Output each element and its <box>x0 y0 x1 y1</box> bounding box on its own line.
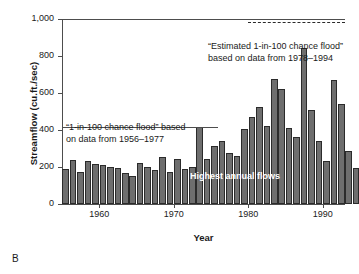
x-tick-label: 1980 <box>238 209 258 219</box>
x-tick-label: 1970 <box>164 209 184 219</box>
bar <box>286 128 293 204</box>
bar <box>278 89 285 204</box>
y-tick: 600 <box>58 93 63 94</box>
x-tick-label: 1960 <box>89 209 109 219</box>
reference-line-1978-1994 <box>248 22 345 23</box>
annotation-estimated-flood: “Estimated 1-in-100 chance flood” based … <box>208 41 343 64</box>
bar <box>137 163 144 204</box>
y-tick-label: 0 <box>20 198 54 208</box>
bar <box>204 159 211 204</box>
bar <box>338 104 345 204</box>
x-tick-label: 1990 <box>313 209 333 219</box>
bar <box>144 167 151 204</box>
x-tick <box>99 204 100 208</box>
bar <box>70 160 77 204</box>
plot-area: 02004006008001,000 1960197019801990 “Est… <box>62 19 345 204</box>
bar <box>345 151 352 204</box>
bar <box>182 169 189 204</box>
bar <box>77 172 84 204</box>
bar <box>107 167 114 204</box>
annotation-highest-annual-flows: Highest annual flows <box>190 171 280 181</box>
bar <box>129 176 136 204</box>
bar <box>249 117 256 204</box>
y-axis-title: Streamflow (cu.ft./sec) <box>28 19 39 209</box>
bar <box>152 170 159 204</box>
x-tick <box>323 204 324 208</box>
annotation-chance-flood-line1: “1-in-100 chance flood” based <box>66 122 186 134</box>
bar <box>331 80 338 204</box>
bar <box>316 141 323 204</box>
x-tick <box>248 204 249 208</box>
y-tick: 200 <box>58 167 63 168</box>
x-tick <box>174 204 175 208</box>
bar <box>264 126 271 204</box>
bar <box>174 159 181 204</box>
bar <box>241 129 248 204</box>
annotation-chance-flood-line2: on data from 1956–1977 <box>66 134 186 146</box>
bar <box>159 157 166 204</box>
y-tick: 400 <box>58 130 63 131</box>
x-axis-title: Year <box>62 232 345 243</box>
bar <box>293 137 300 204</box>
bar <box>122 173 129 204</box>
y-tick-label: 1,000 <box>20 13 54 23</box>
annotation-chance-flood: “1-in-100 chance flood” based on data fr… <box>66 122 186 145</box>
y-tick-label: 200 <box>20 161 54 171</box>
y-tick-label: 400 <box>20 124 54 134</box>
bar <box>353 168 359 204</box>
bar <box>92 164 99 204</box>
bar <box>115 168 122 204</box>
panel-label: B <box>12 253 19 264</box>
y-tick: 0 <box>58 204 63 205</box>
bar <box>301 48 308 204</box>
axis-bottom-spine <box>62 204 345 205</box>
bar <box>100 165 107 204</box>
annotation-estimated-flood-line2: based on data from 1978–1994 <box>208 53 343 65</box>
bar <box>271 79 278 204</box>
bar <box>308 110 315 204</box>
bar <box>256 107 263 204</box>
axis-top-spine <box>62 19 345 20</box>
bar <box>167 172 174 204</box>
bar <box>196 127 203 204</box>
bar <box>323 161 330 204</box>
bar <box>62 169 69 204</box>
y-tick-label: 800 <box>20 50 54 60</box>
y-tick: 800 <box>58 56 63 57</box>
bar <box>85 161 92 204</box>
annotation-estimated-flood-line1: “Estimated 1-in-100 chance flood” <box>208 41 343 53</box>
y-tick: 1,000 <box>58 19 63 20</box>
y-tick-label: 600 <box>20 87 54 97</box>
